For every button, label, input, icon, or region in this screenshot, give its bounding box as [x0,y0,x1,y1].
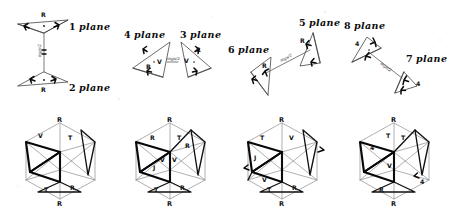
vertex-label: R [180,184,185,191]
icosahedron-projection-3: R R V T J V T R [244,116,324,208]
vertex-label-R: R [41,86,46,93]
plane-group-1-2: R R mgs/2 1plane 2plane [18,11,110,93]
vertex-label: 4 [370,144,375,151]
vertex-label: R [292,184,297,191]
vertex-label: T [386,132,391,139]
plane-group-6-5: R R mgs/2 6plane 5plane [228,17,340,95]
highlighted-faces [26,130,95,192]
vertex-label-R: R [41,11,46,18]
highlighted-faces [136,130,205,192]
vertex-label: R [379,186,384,193]
plane-label-3: 3plane [180,29,221,40]
vertex-label: J [253,154,256,162]
vertex-label: R [70,184,75,191]
plane-shape-6: R [251,57,271,95]
vertex-label: 4 [420,178,425,185]
plane-label-7: 7plane [406,53,447,64]
connector-6-5: mgs/2 [266,50,310,73]
vertex-label: V [38,132,43,139]
bottom-label-R: R [57,200,62,208]
plane-shape-5: R [300,33,320,66]
icosahedron-projection-4: R R V T T 4 R 4 [360,116,429,208]
vertex-label: R [150,134,155,141]
connector-1-2: mgs/2 [37,33,46,72]
vertex-label: V [289,134,294,141]
vertex-label-R: R [300,37,305,44]
vertex-label: V [262,176,267,183]
plane-label-5: 5plane [299,17,340,28]
vertex-label: T [68,134,73,141]
bottom-label-R: R [279,200,284,208]
paper-speckles [17,11,440,186]
connector-annotation: mgs/2 [167,56,180,61]
vertex-label-V: V [157,58,162,65]
plane-label-1: 1plane [69,21,110,32]
vertex-label-4: 4 [355,40,360,47]
plane-group-8-7: 4 4 mgs/2 8plane 7plane [344,20,447,94]
plane-label-6: 6plane [228,44,269,55]
vertex-label: V [160,156,165,163]
highlighted-faces [360,130,429,192]
vertex-label: R [185,142,190,149]
plane-shape-4: V R [133,42,170,77]
bottom-label-R: R [391,200,396,208]
top-label-R: R [279,116,284,124]
vertex-label-V: V [184,57,189,64]
vertex-label: V [387,162,392,169]
top-label-R: R [391,116,396,124]
plane-shape-2: R [18,72,68,93]
top-label-R: R [167,116,172,124]
icosahedron-projection-2: R R V V T R R J T R [136,116,205,208]
plane-shape-1: R [18,11,68,33]
top-label-R: R [57,116,62,124]
plane-label-4: 4plane [124,29,165,40]
plane-shape-3: V R [181,42,211,77]
plane-label-8: 8plane [344,20,385,31]
vertex-label: V [172,156,177,163]
connector-annotation: mgs/2 [379,61,392,73]
vertex-label-R: R [196,46,201,53]
bottom-label-R: R [167,200,172,208]
connector-4-3: mgs/2 [167,56,180,62]
icosahedron-projection-1: R R V T T R [26,116,95,208]
sketch-canvas: R R mgs/2 1plane 2plane V R [0,0,455,208]
connector-annotation: mgs/2 [279,52,293,62]
vertex-label-R: R [262,62,267,69]
plane-group-4-3: V R V R mgs/2 4plane 3plane [124,29,221,77]
vertex-label: J [152,164,155,172]
connector-annotation: mgs/2 [37,44,42,57]
connector-8-7: mgs/2 [371,54,402,78]
plane-label-2: 2plane [69,82,110,93]
vertex-label-R: R [146,63,151,70]
vertex-label-4: 4 [416,80,421,87]
vertex-label: T [260,134,265,141]
